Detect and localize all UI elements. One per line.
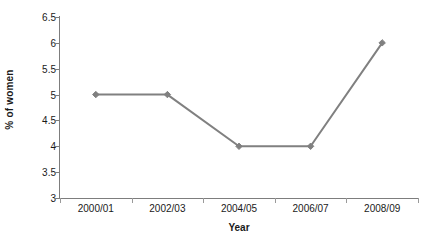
plot-area bbox=[60, 17, 418, 198]
x-axis-tick-label: 2006/07 bbox=[293, 203, 329, 214]
y-axis-tick-label: 5.5 bbox=[22, 63, 56, 74]
x-axis-tick-label: 2004/05 bbox=[221, 203, 257, 214]
x-axis-line bbox=[59, 198, 419, 199]
y-axis-tick-mark bbox=[54, 17, 59, 18]
y-axis-tick-mark bbox=[54, 146, 59, 147]
x-axis-tick-labels: 2000/012002/032004/052006/072008/09 bbox=[60, 203, 418, 219]
y-axis-tick-label: 4 bbox=[22, 141, 56, 152]
y-axis-title: % of women bbox=[0, 0, 18, 198]
y-axis-tick-label: 4.5 bbox=[22, 115, 56, 126]
y-axis-tick-mark bbox=[54, 172, 59, 173]
y-axis-tick-mark bbox=[54, 95, 59, 96]
series-line bbox=[96, 43, 382, 146]
x-axis-tick-mark bbox=[275, 198, 276, 203]
y-axis-title-text: % of women bbox=[4, 69, 15, 129]
y-axis-tick-label: 5 bbox=[22, 89, 56, 100]
y-axis-tick-label: 3.5 bbox=[22, 167, 56, 178]
y-axis-tick-mark bbox=[54, 69, 59, 70]
y-axis-tick-mark bbox=[54, 198, 59, 199]
y-axis-tick-label: 6.5 bbox=[22, 12, 56, 23]
x-axis-tick-mark bbox=[60, 198, 61, 203]
y-axis-tick-label: 6 bbox=[22, 37, 56, 48]
x-axis-tick-label: 2008/09 bbox=[364, 203, 400, 214]
y-axis-tick-labels: 33.544.555.566.5 bbox=[19, 0, 56, 245]
x-axis-tick-mark bbox=[346, 198, 347, 203]
chart-figure: % of women 33.544.555.566.5 2000/012002/… bbox=[0, 0, 429, 245]
x-axis-title: Year bbox=[60, 222, 418, 233]
x-axis-tick-mark bbox=[418, 198, 419, 203]
x-axis-tick-label: 2002/03 bbox=[149, 203, 185, 214]
y-axis-tick-mark bbox=[54, 120, 59, 121]
y-axis-tick-label: 3 bbox=[22, 193, 56, 204]
x-axis-tick-label: 2000/01 bbox=[78, 203, 114, 214]
x-axis-tick-mark bbox=[203, 198, 204, 203]
y-axis-tick-mark bbox=[54, 43, 59, 44]
line-series bbox=[60, 17, 418, 198]
data-point-marker bbox=[93, 91, 99, 97]
x-axis-tick-mark bbox=[132, 198, 133, 203]
